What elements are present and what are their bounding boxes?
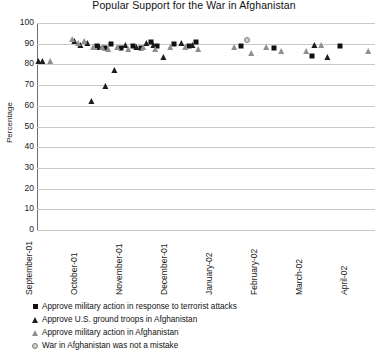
x-axis-tick-label: April-02 [339, 266, 349, 295]
data-point [75, 40, 81, 46]
x-axis-tick-label: October-01 [69, 252, 79, 295]
legend-label: Approve U.S. ground troops in Afghanista… [42, 315, 197, 324]
legend-label: War in Afghanistan was not a mistake [42, 341, 178, 350]
y-axis-tick-label: 10 [4, 203, 34, 213]
data-point [311, 42, 317, 48]
gridline [37, 147, 375, 148]
filled-square-icon [28, 304, 42, 309]
legend-item: Approve U.S. ground troops in Afghanista… [28, 313, 378, 326]
data-point [133, 44, 139, 50]
gridline [37, 64, 375, 65]
y-axis-tick-label: 60 [4, 100, 34, 110]
data-point [160, 54, 166, 60]
x-axis-tick-label: September-01 [24, 241, 34, 295]
data-point [278, 48, 284, 54]
data-point [152, 46, 158, 52]
plot-area [37, 23, 375, 230]
chart-container: Popular Support for the War in Afghanist… [0, 0, 388, 357]
data-point [182, 44, 188, 50]
open-triangle-icon [28, 330, 42, 336]
data-point [303, 48, 309, 54]
data-point [47, 58, 53, 64]
data-point [325, 54, 331, 60]
gridline [37, 189, 375, 190]
y-axis-tick-label: 90 [4, 38, 34, 48]
y-axis-tick-label: 80 [4, 58, 34, 68]
data-point [103, 83, 109, 89]
data-point [248, 50, 254, 56]
legend-label: Approve military action in Afghanistan [42, 328, 179, 337]
data-point [81, 38, 87, 44]
legend-item: Approve military action in response to t… [28, 300, 378, 313]
legend-item: War in Afghanistan was not a mistake [28, 339, 378, 352]
y-axis-tick-label: 100 [4, 17, 34, 27]
data-point [319, 42, 325, 48]
x-axis-tick-label: January-02 [204, 252, 214, 295]
open-circle-icon [28, 343, 42, 349]
chart-title: Popular Support for the War in Afghanist… [0, 0, 388, 11]
data-point [244, 37, 250, 43]
data-point [167, 44, 173, 50]
y-axis-tick-label: 20 [4, 183, 34, 193]
data-point [231, 44, 237, 50]
x-axis-ticks: September-01October-01November-01Decembe… [37, 233, 375, 295]
gridline [37, 230, 375, 231]
legend-item: Approve military action in Afghanistan [28, 326, 378, 339]
data-point [365, 48, 371, 54]
gridline [37, 127, 375, 128]
y-axis-tick-label: 70 [4, 79, 34, 89]
legend-label: Approve military action in response to t… [42, 302, 237, 311]
data-point [125, 46, 131, 52]
y-axis-tick-label: 30 [4, 162, 34, 172]
y-axis-tick-label: 40 [4, 141, 34, 151]
x-axis-tick-label: November-01 [114, 244, 124, 296]
filled-triangle-icon [28, 317, 42, 323]
data-point [263, 44, 269, 50]
data-point [272, 45, 277, 50]
y-axis-ticks: 1009080706050403020100 [0, 23, 34, 230]
chart-legend: Approve military action in response to t… [28, 300, 378, 352]
data-point [338, 43, 343, 48]
gridline [37, 168, 375, 169]
data-point [39, 58, 45, 64]
gridline [37, 23, 375, 24]
x-axis-tick-label: March-02 [294, 259, 304, 295]
x-axis-tick-label: February-02 [249, 249, 259, 295]
gridline [37, 85, 375, 86]
data-point [195, 46, 201, 52]
gridline [37, 209, 375, 210]
data-point [309, 54, 314, 59]
data-point [114, 44, 120, 50]
data-point [111, 67, 117, 73]
data-point [88, 98, 94, 104]
y-axis-tick-label: 50 [4, 121, 34, 131]
data-point [239, 43, 244, 48]
y-axis-tick-label: 0 [4, 224, 34, 234]
data-point [140, 44, 146, 50]
data-point [90, 44, 96, 50]
gridline [37, 106, 375, 107]
data-point [105, 46, 111, 52]
x-axis-tick-label: December-01 [159, 244, 169, 296]
